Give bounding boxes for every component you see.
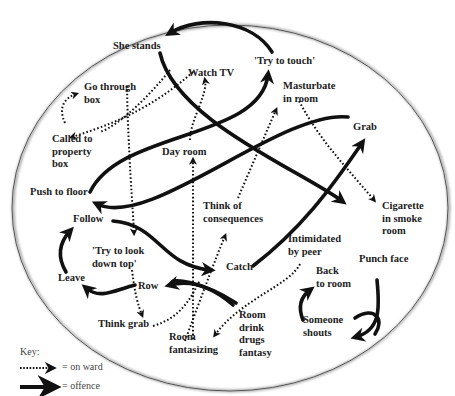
- offence-arrow: [97, 117, 348, 208]
- offence-arrow: [170, 23, 272, 52]
- node-cigarette: Cigarette in smoke room: [382, 200, 424, 238]
- legend-label-on-ward: = on ward: [62, 361, 103, 372]
- node-leave: Leave: [58, 272, 85, 285]
- node-day-room: Day room: [162, 146, 206, 159]
- node-watch-tv: Watch TV: [188, 67, 234, 80]
- node-she-stands: She stands: [113, 40, 161, 53]
- node-try-to-look: 'Try to look down top': [92, 245, 144, 270]
- legend-label-offence: = offence: [62, 380, 100, 391]
- node-catch: Catch: [226, 261, 253, 274]
- node-try-to-touch: 'Try to touch': [254, 55, 315, 68]
- legend-title: Key:: [20, 346, 39, 357]
- node-follow: Follow: [73, 213, 103, 226]
- node-think-grab: Think grab: [98, 318, 149, 331]
- node-someone-shouts: Someone shouts: [303, 314, 343, 339]
- ward-arrow: [62, 94, 76, 123]
- node-row: Row: [138, 280, 158, 293]
- node-intimidated: Intimidated by peer: [288, 233, 341, 258]
- ward-arrow: [132, 270, 142, 315]
- offence-arrow: [60, 231, 70, 272]
- node-room-drink: Room drink drugs fantasy: [239, 309, 272, 359]
- node-masturbate: Masturbate in room: [283, 80, 336, 105]
- ward-arrow: [127, 86, 134, 233]
- node-punch-face: Punch face: [359, 253, 408, 266]
- node-grab: Grab: [353, 121, 377, 134]
- node-called-to-property-box: Called to property box: [52, 133, 93, 171]
- node-think-of-consequences: Think of consequences: [203, 200, 263, 225]
- node-back-to-room: Back to room: [316, 265, 351, 290]
- node-push-to-floor: Push to floor: [30, 186, 88, 199]
- node-go-through-box: Go through box: [84, 81, 136, 106]
- node-room-fantasizing: Room fantasizing: [169, 331, 218, 356]
- offence-arrow: [356, 280, 378, 337]
- offence-arrow: [86, 285, 135, 294]
